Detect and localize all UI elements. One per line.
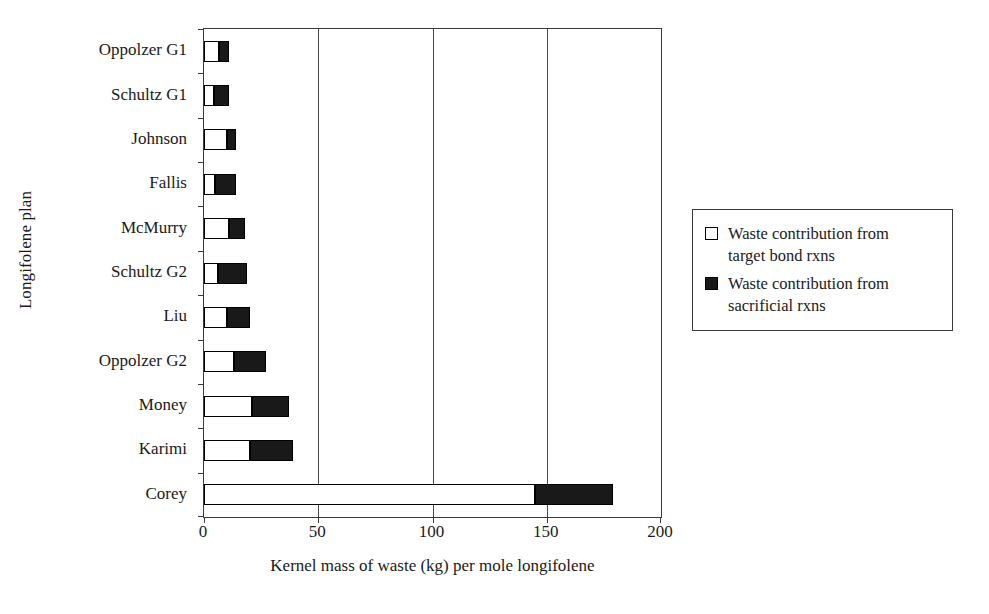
bar-segment-sacrificial	[229, 218, 245, 239]
y-axis-tick-mark	[198, 162, 204, 163]
y-axis-tick-mark	[198, 473, 204, 474]
y-axis-tick-label: Schultz G1	[27, 86, 187, 104]
bar-segment-sacrificial	[252, 396, 289, 417]
y-axis-tick-mark	[198, 340, 204, 341]
y-axis-tick-labels: Oppolzer G1Schultz G1JohnsonFallisMcMurr…	[40, 28, 197, 518]
bar-segment-target-bond	[204, 85, 214, 106]
bar-segment-sacrificial	[535, 484, 613, 505]
x-axis-tick-label: 50	[287, 522, 347, 542]
y-axis-title: Longifolene plan	[16, 140, 36, 360]
y-axis-tick-label: Schultz G2	[27, 263, 187, 281]
y-axis-tick-label: McMurry	[27, 219, 187, 237]
bar-row	[204, 129, 661, 150]
y-axis-tick-label: Liu	[27, 307, 187, 325]
bar-segment-sacrificial	[234, 351, 266, 372]
y-axis-tick-label: Johnson	[27, 130, 187, 148]
bar-segment-target-bond	[204, 484, 535, 505]
x-axis-tick-label: 150	[516, 522, 576, 542]
bar-segment-target-bond	[204, 263, 218, 284]
bar-segment-sacrificial	[218, 263, 248, 284]
bar-row	[204, 440, 661, 461]
y-axis-tick-mark	[198, 206, 204, 207]
bar-row	[204, 351, 661, 372]
y-axis-tick-mark	[198, 295, 204, 296]
bar-row	[204, 307, 661, 328]
legend-swatch-hollow-icon	[705, 227, 718, 240]
bar-segment-target-bond	[204, 129, 227, 150]
bar-segment-target-bond	[204, 396, 252, 417]
bar-segment-target-bond	[204, 307, 227, 328]
bar-segment-sacrificial	[227, 129, 236, 150]
bar-segment-target-bond	[204, 174, 215, 195]
y-axis-tick-label: Oppolzer G2	[27, 352, 187, 370]
legend-entry-sacrificial: Waste contribution from sacrificial rxns	[705, 273, 945, 317]
y-axis-tick-mark	[198, 428, 204, 429]
bar-row	[204, 41, 661, 62]
bar-segment-sacrificial	[214, 85, 229, 106]
bar-segment-sacrificial	[219, 41, 229, 62]
y-axis-tick-label: Money	[27, 396, 187, 414]
chart-legend: Waste contribution from target bond rxns…	[692, 209, 953, 331]
legend-label: Waste contribution from target bond rxns	[728, 223, 889, 267]
x-axis-title: Kernel mass of waste (kg) per mole longi…	[203, 556, 662, 576]
y-axis-tick-label: Fallis	[27, 174, 187, 192]
bar-row	[204, 218, 661, 239]
x-axis-tick-label: 100	[402, 522, 462, 542]
y-axis-tick-mark	[198, 29, 204, 30]
y-axis-tick-mark	[198, 251, 204, 252]
bar-segment-sacrificial	[215, 174, 236, 195]
y-axis-tick-label: Oppolzer G1	[27, 41, 187, 59]
legend-swatch-filled-icon	[705, 277, 718, 290]
bar-segment-target-bond	[204, 440, 250, 461]
x-axis-tick-label: 200	[630, 522, 690, 542]
legend-label: Waste contribution from sacrificial rxns	[728, 273, 889, 317]
y-axis-tick-mark	[198, 384, 204, 385]
y-axis-tick-label: Corey	[27, 485, 187, 503]
chart-figure: Longifolene plan Oppolzer G1Schultz G1Jo…	[0, 0, 989, 614]
x-axis-tick-label: 0	[173, 522, 233, 542]
bar-row	[204, 174, 661, 195]
x-axis-tick-labels: 050100150200	[203, 522, 662, 548]
bar-segment-sacrificial	[250, 440, 293, 461]
bar-segment-target-bond	[204, 41, 219, 62]
bar-row	[204, 396, 661, 417]
y-axis-tick-mark	[198, 516, 204, 517]
y-axis-tick-label: Karimi	[27, 440, 187, 458]
bar-segment-target-bond	[204, 218, 229, 239]
bar-row	[204, 263, 661, 284]
bar-segment-sacrificial	[227, 307, 250, 328]
legend-entry-target-bond: Waste contribution from target bond rxns	[705, 223, 945, 267]
bar-row	[204, 484, 661, 505]
y-axis-tick-mark	[198, 73, 204, 74]
y-axis-tick-mark	[198, 118, 204, 119]
bar-segment-target-bond	[204, 351, 234, 372]
bar-row	[204, 85, 661, 106]
plot-area	[203, 28, 662, 518]
